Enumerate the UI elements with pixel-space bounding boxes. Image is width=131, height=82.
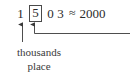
digit-tens: 0 [47,7,54,20]
hundreds-place-elbow-arrow [35,25,131,34]
equation: 1 5 0 3 ≈ 2000 [17,5,106,22]
place-value-rounding-figure: 1 5 0 3 ≈ 2000 thousands place [0,0,130,82]
caption-line-thousands: thousands [0,46,78,60]
rounded-result: 2000 [80,7,106,20]
caption: thousands place [0,46,78,74]
digit-hundreds-boxed: 5 [29,5,42,22]
digit-thousands: 1 [17,7,24,20]
caption-line-place: place [0,60,78,74]
approximately-equal-symbol: ≈ [69,7,76,19]
digit-ones: 3 [57,7,64,20]
